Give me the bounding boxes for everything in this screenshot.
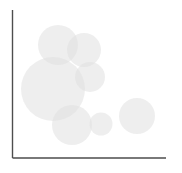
data-point-bubble-bottom-small [90,113,113,136]
data-point-bubble-mid-right [75,62,105,92]
data-point-bubble-right [119,98,155,134]
data-point-bubble-bottom-mid [52,105,92,145]
data-point-bubble-top-right [67,33,101,67]
bubble-chart-figure [0,0,182,173]
chart-canvas [0,0,182,173]
